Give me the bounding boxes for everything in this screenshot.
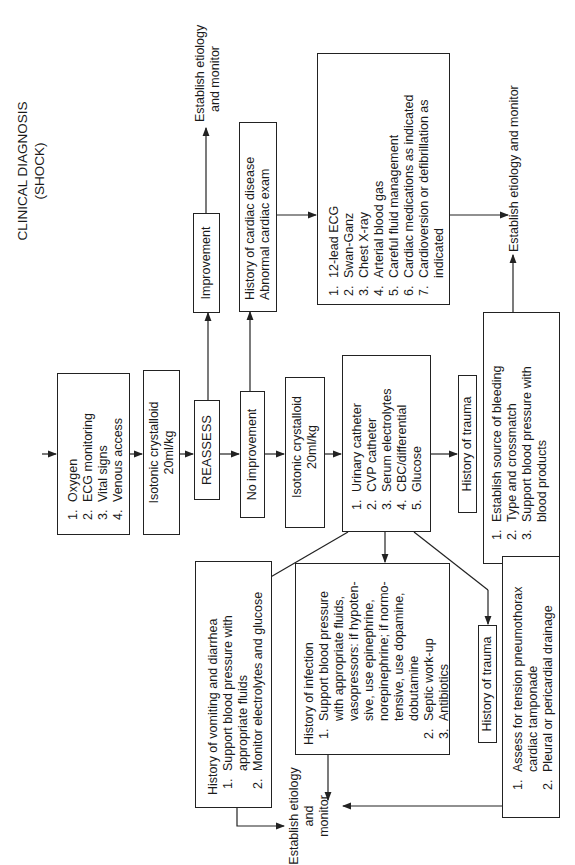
tension-tamponade: cardiac tamponade: [526, 586, 541, 790]
bleeding-support-bp-cont: blood products: [535, 366, 550, 540]
establish-top-line-1: Establish etiology: [193, 25, 208, 122]
list-item-text: tensive, use dopamine,: [392, 581, 407, 745]
tension-assess: Assess for tension pneumothorax: [511, 586, 525, 772]
workup-swan-ganz: Swan-Ganz: [342, 213, 356, 278]
num: 2.: [81, 502, 96, 520]
step-oxygen: Oxygen: [66, 459, 80, 502]
establish-etiology-bottom: Establish etiology and monitor: [287, 766, 332, 865]
establish-etiology-right: Establish etiology and monitor: [507, 85, 522, 252]
establish-top-line-2: and monitor: [208, 25, 223, 122]
list-number: 2.: [505, 522, 520, 540]
vomiting-text: History of vomiting and diarrhea 1.Suppo…: [206, 592, 266, 795]
list-number: 1.: [327, 278, 342, 296]
step-ecg: ECG monitoring: [81, 413, 95, 502]
infection-support-bp: Support blood pressure: [317, 591, 331, 721]
list-number: 3.: [380, 492, 395, 510]
fluid-1-line-2: 20ml/kg: [162, 385, 177, 520]
bleeding-list: 1.Establish source of bleeding 2.Type an…: [490, 366, 550, 540]
vomiting-support-bp-cont: appropriate fluids: [236, 592, 251, 795]
fluid-2-line-1: Isotonic crystalloid: [290, 382, 305, 512]
list-number: 5.: [410, 492, 425, 510]
fluid-1-line-1: Isotonic crystalloid: [147, 385, 162, 520]
list-number: 3.: [357, 278, 372, 296]
infection-heading: History of infection: [302, 581, 317, 745]
monitor-cbc: CBC/differential: [395, 405, 409, 492]
workup-fluid-mgmt: Careful fluid management: [387, 135, 401, 278]
step-vitals: Vital signs: [96, 445, 110, 502]
workup-cardioversion: Cardioversion or defibrillation as: [417, 99, 431, 278]
vomiting-support-bp: Support blood pressure with: [221, 615, 235, 771]
cardiac-workup-list: 1.12-lead ECG 2.Swan-Ganz 3.Chest X-ray …: [327, 95, 447, 296]
cardiac-history-text: History of cardiac disease Abnormal card…: [243, 157, 273, 300]
establish-etiology-top: Establish etiology and monitor: [193, 25, 223, 122]
list-number: 4.: [395, 492, 410, 510]
improvement-label: Improvement: [199, 221, 214, 305]
num: 3.: [96, 502, 111, 520]
monitor-electrolytes: Serum electrolytes: [380, 388, 394, 492]
tension-drainage: Pleural or pericardial drainage: [541, 605, 555, 772]
step-venous: Venous access: [111, 418, 125, 502]
establish-bottom-line-1: Establish etiology: [287, 766, 302, 865]
list-number: 1.: [221, 771, 236, 789]
workup-abg: Arterial blood gas: [372, 181, 386, 278]
diagnosis-title: CLINICAL DIAGNOSIS (SHOCK): [14, 96, 48, 246]
list-number: 1.: [350, 492, 365, 510]
list-number: 5.: [387, 278, 402, 296]
trauma-lower-label: History of trauma: [480, 628, 495, 740]
list-number: 1.: [511, 772, 526, 790]
list-number: 2.: [251, 771, 266, 789]
fluid-2-line-2: 20ml/kg: [305, 382, 320, 512]
vomiting-monitor: Monitor electrolytes and glucose: [251, 592, 265, 771]
list-number: 3.: [437, 721, 452, 739]
tension-list: 1.Assess for tension pneumothorax cardia…: [511, 586, 556, 790]
monitor-cvp: CVP catheter: [365, 418, 379, 492]
establish-bottom-line-3: monitor: [317, 766, 332, 865]
establish-bottom-line-2: and: [302, 766, 317, 865]
monitor-glucose: Glucose: [410, 446, 424, 492]
list-item-text: dobutamine: [407, 581, 422, 745]
workup-cardiac-meds: Cardiac medications as indicated: [402, 95, 416, 278]
infection-antibiotics: Antibiotics: [437, 664, 451, 721]
bleeding-crossmatch: Type and crossmatch: [505, 403, 519, 522]
infection-septic-workup: Septic work-up: [422, 638, 436, 721]
fluid-bolus-1-text: Isotonic crystalloid 20ml/kg: [147, 385, 177, 520]
list-number: 3.: [520, 522, 535, 540]
list-item-text: norepinephrine; if normo-: [377, 581, 392, 745]
bleeding-source: Establish source of bleeding: [490, 366, 504, 522]
monitoring-list: 1.Urinary catheter 2.CVP catheter 3.Seru…: [350, 388, 425, 510]
title-line-2: (SHOCK): [31, 96, 48, 246]
list-number: 2.: [342, 278, 357, 296]
list-number: 7.: [417, 278, 432, 296]
trauma-upper-label: History of trauma: [460, 383, 475, 505]
infection-text: History of infection 1.Support blood pre…: [302, 581, 452, 745]
num: 4.: [111, 502, 126, 520]
monitor-urinary: Urinary catheter: [350, 403, 364, 492]
cardiac-history-line-2: Abnormal cardiac exam: [258, 157, 273, 300]
no-improvement-label: No improvement: [245, 397, 260, 512]
cardiac-history-line-1: History of cardiac disease: [243, 157, 258, 300]
reassess-label: REASSESS: [199, 408, 214, 492]
list-item-text: vasopressors: if hypoten-: [347, 581, 362, 745]
list-number: 1.: [317, 721, 332, 739]
list-item-text: with appropriate fluids,: [332, 581, 347, 745]
num: 1.: [66, 502, 81, 520]
initial-steps-list: 1.Oxygen 2.ECG monitoring 3.Vital signs …: [66, 413, 126, 520]
workup-chest-xray: Chest X-ray: [357, 212, 371, 278]
workup-ecg: 12-lead ECG: [327, 206, 341, 278]
list-item-text: sive, use epinephrine,: [362, 581, 377, 745]
list-number: 6.: [402, 278, 417, 296]
list-number: 2.: [365, 492, 380, 510]
fluid-bolus-2-text: Isotonic crystalloid 20ml/kg: [290, 382, 320, 512]
workup-cardioversion-cont: indicated: [432, 95, 447, 296]
title-line-1: CLINICAL DIAGNOSIS: [14, 96, 31, 246]
list-number: 4.: [372, 278, 387, 296]
list-number: 2.: [422, 721, 437, 739]
list-number: 1.: [490, 522, 505, 540]
bleeding-support-bp: Support blood pressure with: [520, 366, 534, 522]
vomiting-heading: History of vomiting and diarrhea: [206, 592, 221, 795]
list-number: 2.: [541, 772, 556, 790]
